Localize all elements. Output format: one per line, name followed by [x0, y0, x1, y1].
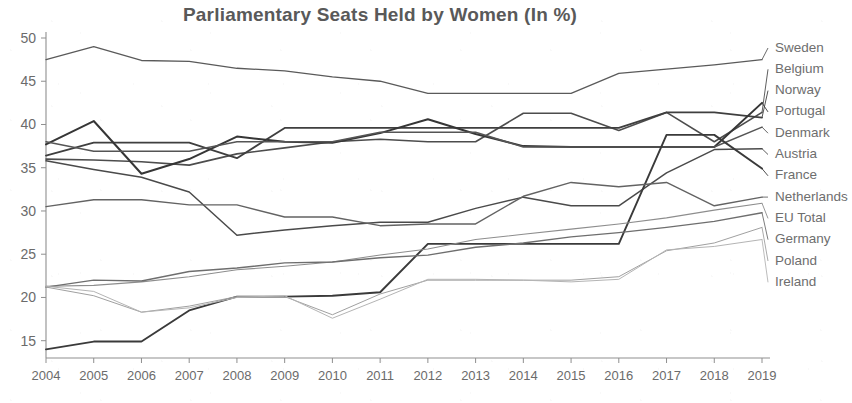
x-tick-label: 2009 [270, 368, 299, 383]
x-axis: 2004200520062007200820092010201120122013… [32, 358, 777, 383]
x-tick-label: 2013 [461, 368, 490, 383]
x-tick-label: 2017 [652, 368, 681, 383]
line-chart-plot: 1520253035404550 20042005200620072008200… [0, 0, 852, 403]
legend-label-denmark: Denmark [775, 125, 830, 140]
legend-label-netherlands: Netherlands [775, 189, 848, 204]
y-axis: 1520253035404550 [20, 30, 46, 358]
x-tick-label: 2011 [366, 368, 394, 383]
legend-leader-line [762, 127, 768, 133]
y-tick-label: 45 [20, 73, 36, 89]
legend-label-eu-total: EU Total [775, 210, 826, 225]
legend-label-portugal: Portugal [775, 103, 825, 118]
legend-label-ireland: Ireland [775, 274, 816, 289]
series-line-poland [46, 227, 762, 314]
legend: SwedenBelgiumNorwayPortugalDenmarkAustri… [762, 40, 848, 289]
series-line-sweden [46, 47, 762, 94]
x-tick-label: 2005 [79, 368, 108, 383]
legend-label-norway: Norway [775, 82, 821, 97]
legend-label-germany: Germany [775, 231, 831, 246]
y-tick-label: 30 [20, 203, 36, 219]
x-tick-label: 2016 [604, 368, 633, 383]
y-tick-label: 35 [20, 160, 36, 176]
y-tick-label: 50 [20, 30, 36, 46]
y-tick-label: 15 [20, 333, 36, 349]
series-line-eu-total [46, 203, 762, 286]
x-tick-label: 2012 [413, 368, 442, 383]
legend-leader-line [762, 169, 768, 176]
legend-label-sweden: Sweden [775, 40, 824, 55]
series-line-denmark [46, 127, 762, 151]
x-tick-label: 2004 [32, 368, 61, 383]
series-line-belgium [46, 112, 762, 165]
series-lines [46, 47, 762, 350]
y-tick-label: 25 [20, 246, 36, 262]
legend-leader-line [762, 149, 768, 155]
x-tick-label: 2015 [557, 368, 586, 383]
series-line-germany [46, 213, 762, 287]
legend-label-france: France [775, 167, 817, 182]
chart-container: Parliamentary Seats Held by Women (In %)… [0, 0, 852, 403]
x-tick-label: 2014 [509, 368, 538, 383]
x-tick-label: 2019 [748, 368, 777, 383]
x-tick-label: 2008 [222, 368, 251, 383]
series-line-france [46, 135, 762, 349]
y-tick-label: 40 [20, 116, 36, 132]
legend-label-poland: Poland [775, 253, 817, 268]
x-tick-label: 2006 [127, 368, 156, 383]
x-tick-label: 2007 [175, 368, 204, 383]
y-tick-label: 20 [20, 289, 36, 305]
x-tick-label: 2018 [700, 368, 729, 383]
legend-label-belgium: Belgium [775, 61, 824, 76]
x-tick-label: 2010 [318, 368, 347, 383]
legend-label-austria: Austria [775, 146, 818, 161]
legend-leader-line [762, 48, 768, 60]
